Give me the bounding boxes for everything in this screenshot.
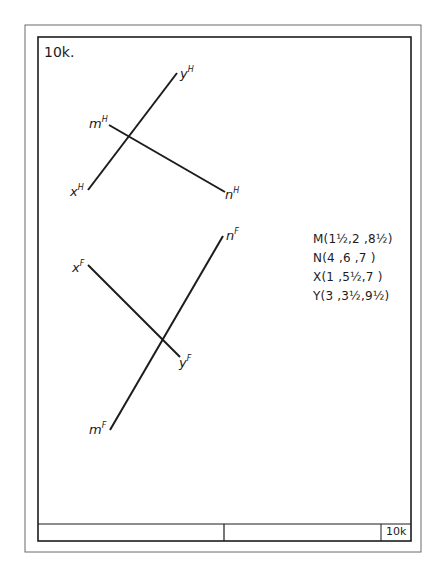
title-block-id: 10k (386, 525, 406, 538)
label-y-h: yH (179, 65, 194, 81)
coordinate-m: M(1½,2 ,8½) (313, 230, 393, 249)
coordinate-x: X(1 ,5½,7 ) (313, 268, 393, 287)
coordinate-y: Y(3 ,3½,9½) (313, 287, 393, 306)
label-n-h: nH (225, 186, 239, 202)
coordinate-n: N(4 ,6 ,7 ) (313, 249, 393, 268)
label-m-f: mF (89, 421, 107, 437)
drawing-sheet: yH mH xH nH nF xF yF mF 10k. M(1½,2 ,8½)… (0, 0, 442, 568)
label-m-h: mH (89, 115, 108, 131)
label-x-h: xH (69, 183, 84, 199)
label-y-f: yF (178, 354, 192, 370)
line-xy-horizontal-view (88, 73, 177, 190)
label-n-f: nF (226, 227, 239, 243)
line-mn-frontal-view (110, 236, 223, 430)
sheet-id-label: 10k. (44, 44, 74, 60)
label-x-f: xF (71, 259, 85, 275)
line-mn-horizontal-view (109, 125, 225, 192)
point-coordinates-list: M(1½,2 ,8½) N(4 ,6 ,7 ) X(1 ,5½,7 ) Y(3 … (313, 230, 393, 306)
line-xy-frontal-view (88, 265, 180, 357)
